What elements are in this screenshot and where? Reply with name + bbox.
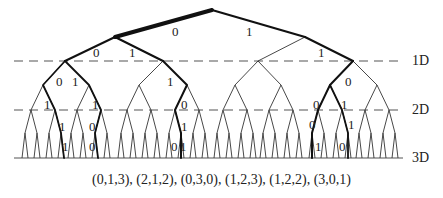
- edge-label: 1: [129, 46, 136, 59]
- edge-label: 1: [72, 75, 79, 88]
- root-left-edge: [115, 10, 212, 37]
- caption: (0,1,3), (2,1,2), (0,3,0), (1,2,3), (1,2…: [0, 172, 443, 188]
- binary-tree-diagram: [0, 0, 443, 198]
- edge-label: 0: [89, 120, 96, 133]
- root-right-edge: [212, 10, 305, 37]
- edge-label: 0: [345, 75, 352, 88]
- edge-label: 1: [167, 75, 174, 88]
- level-label-2d: 2D: [412, 103, 429, 117]
- edge-label: 1: [180, 140, 187, 153]
- edge-label: 0: [89, 140, 96, 153]
- edge-label: 1: [315, 140, 322, 153]
- edge-label: 0: [181, 98, 188, 111]
- edge-label: 0: [56, 75, 63, 88]
- level-label-1d: 1D: [412, 54, 429, 68]
- edge-label: 1: [341, 98, 348, 111]
- edge-label: 0: [172, 25, 179, 38]
- edge-label: 0: [313, 98, 320, 111]
- edge-label: 1: [44, 98, 51, 111]
- edge-label: 1: [318, 46, 325, 59]
- highlighted-paths: [43, 10, 353, 158]
- edge-label: 0: [93, 46, 100, 59]
- edge-label: 1: [181, 120, 188, 133]
- edge-label: 1: [62, 140, 69, 153]
- edge-label: 1: [348, 118, 355, 131]
- level-label-3d: 3D: [412, 151, 429, 165]
- edge-label: 1: [246, 25, 253, 38]
- edge-label: 0: [339, 140, 346, 153]
- edge-label: 0: [171, 140, 178, 153]
- edge-label: 0: [309, 118, 316, 131]
- edge-label: 1: [92, 98, 99, 111]
- edge-label: 1: [59, 120, 66, 133]
